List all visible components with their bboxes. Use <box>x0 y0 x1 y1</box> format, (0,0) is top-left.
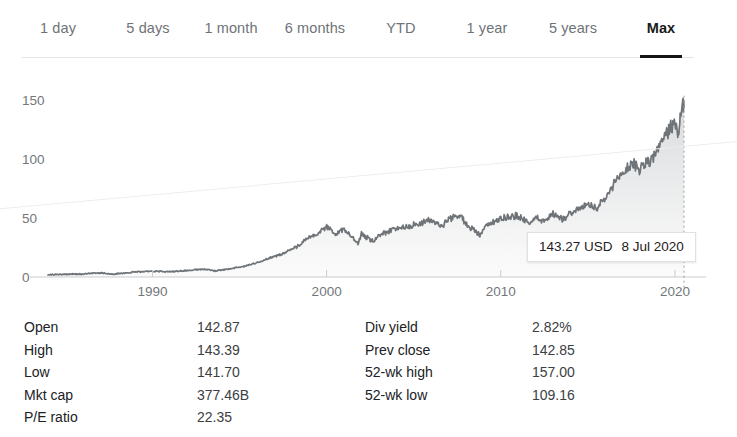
x-axis-tick-2000: 2000 <box>312 284 342 299</box>
price-chart[interactable]: 050100150 1990200020102020 143.27 USD8 J… <box>0 62 716 310</box>
x-axis-tick-1990: 1990 <box>137 284 167 299</box>
stat-row: Mkt cap377.46B <box>24 384 354 407</box>
stat-value-p-e-ratio: 22.35 <box>197 406 232 429</box>
stats-table: Open142.87High143.39Low141.70Mkt cap377.… <box>0 316 716 434</box>
x-axis-tick-2010: 2010 <box>486 284 516 299</box>
stat-row: Open142.87 <box>24 316 354 339</box>
range-tab-bar: 1 day5 days1 month6 monthsYTD1 year5 yea… <box>0 0 716 58</box>
range-tab-1-day[interactable]: 1 day <box>40 20 76 36</box>
tooltip-date-value: 8 Jul 2020 <box>622 239 684 254</box>
stat-label-52-wk-low: 52-wk low <box>365 384 427 407</box>
stat-row: Div yield2.82% <box>365 316 695 339</box>
stat-value-mkt-cap: 377.46B <box>197 384 249 407</box>
stat-label-p-e-ratio: P/E ratio <box>24 406 78 429</box>
stat-row: 52-wk low109.16 <box>365 384 695 407</box>
y-axis-tick-150: 150 <box>22 92 45 107</box>
stat-label-52-wk-high: 52-wk high <box>365 361 433 384</box>
price-tooltip: 143.27 USD8 Jul 2020 <box>527 232 696 262</box>
active-tab-underline <box>640 55 682 58</box>
range-tab-6-months[interactable]: 6 months <box>285 20 345 36</box>
y-axis-tick-0: 0 <box>22 270 30 285</box>
stat-row: Prev close142.85 <box>365 339 695 362</box>
stat-value-prev-close: 142.85 <box>532 339 575 362</box>
range-tab-max[interactable]: Max <box>647 20 676 36</box>
y-axis-tick-100: 100 <box>22 151 45 166</box>
stat-label-mkt-cap: Mkt cap <box>24 384 73 407</box>
range-tab-1-month[interactable]: 1 month <box>204 20 257 36</box>
stat-value-low: 141.70 <box>197 361 240 384</box>
stat-row: 52-wk high157.00 <box>365 361 695 384</box>
range-tab-5-years[interactable]: 5 years <box>549 20 597 36</box>
stat-value-div-yield: 2.82% <box>532 316 572 339</box>
stat-value-high: 143.39 <box>197 339 240 362</box>
chart-canvas[interactable] <box>0 62 716 310</box>
tab-bar-divider <box>22 57 694 58</box>
y-axis-tick-50: 50 <box>22 210 37 225</box>
stat-value-52-wk-high: 157.00 <box>532 361 575 384</box>
range-tab-1-year[interactable]: 1 year <box>467 20 508 36</box>
stat-label-open: Open <box>24 316 58 339</box>
x-axis-tick-2020: 2020 <box>660 284 690 299</box>
stat-label-div-yield: Div yield <box>365 316 418 339</box>
tooltip-price-value: 143.27 USD <box>539 239 613 254</box>
stats-column-left: Open142.87High143.39Low141.70Mkt cap377.… <box>24 316 354 429</box>
stat-row: Low141.70 <box>24 361 354 384</box>
stat-value-52-wk-low: 109.16 <box>532 384 575 407</box>
stats-column-right: Div yield2.82%Prev close142.8552-wk high… <box>365 316 695 406</box>
stat-label-low: Low <box>24 361 50 384</box>
range-tab-5-days[interactable]: 5 days <box>126 20 169 36</box>
stat-value-open: 142.87 <box>197 316 240 339</box>
stat-row: High143.39 <box>24 339 354 362</box>
stat-row: P/E ratio22.35 <box>24 406 354 429</box>
range-tab-ytd[interactable]: YTD <box>386 20 415 36</box>
stat-label-high: High <box>24 339 53 362</box>
stat-label-prev-close: Prev close <box>365 339 430 362</box>
